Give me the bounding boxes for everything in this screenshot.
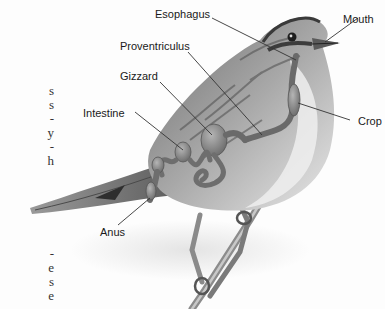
text-fragment: - — [40, 112, 54, 126]
bird-illustration — [0, 0, 385, 309]
text-fragment: h — [40, 154, 54, 168]
label-crop: Crop — [358, 115, 382, 127]
text-fragment: - — [40, 247, 54, 261]
text-fragment: e — [40, 289, 54, 303]
label-proventriculus: Proventriculus — [120, 40, 190, 52]
label-mouth: Mouth — [343, 13, 374, 25]
text-fragment: s — [40, 84, 54, 98]
text-fragment: e — [40, 261, 54, 275]
label-gizzard: Gizzard — [120, 70, 158, 82]
bird-digestive-diagram: s s - y - h - e s e Esophagus Mouth Prov… — [0, 0, 385, 309]
text-fragment: y — [40, 126, 54, 140]
crop-organ — [288, 84, 300, 116]
label-intestine: Intestine — [83, 107, 125, 119]
text-fragment: - — [40, 140, 54, 154]
eye — [288, 33, 297, 42]
text-fragment: s — [40, 98, 54, 112]
text-fragment: s — [40, 275, 54, 289]
label-anus: Anus — [100, 226, 125, 238]
label-esophagus: Esophagus — [155, 8, 210, 20]
